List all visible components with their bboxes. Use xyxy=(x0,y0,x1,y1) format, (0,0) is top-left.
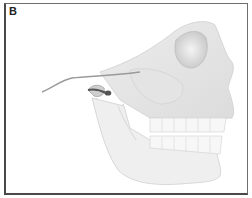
orbit xyxy=(175,31,207,68)
skull-illustration xyxy=(0,0,252,198)
teeth xyxy=(150,118,226,154)
